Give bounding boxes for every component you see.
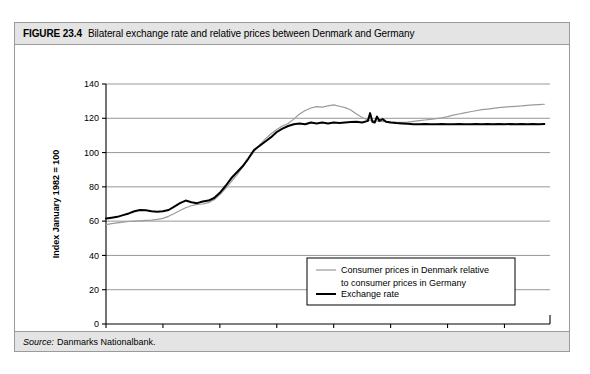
figure-number-label: FIGURE 23.4 bbox=[23, 28, 82, 39]
legend-label-exchange-rate: Exchange rate bbox=[341, 289, 399, 299]
source-text: Danmarks Nationalbank. bbox=[57, 337, 156, 347]
source-prefix-label: Source: bbox=[23, 337, 54, 347]
figure-source-bar: Source: Danmarks Nationalbank. bbox=[15, 331, 569, 351]
figure-frame: FIGURE 23.4 Bilateral exchange rate and … bbox=[14, 22, 570, 352]
y-axis-tick-label: 20 bbox=[89, 285, 99, 295]
y-axis-title: Index January 1982 = 100 bbox=[51, 150, 61, 258]
y-axis-tick-label: 0 bbox=[94, 319, 99, 329]
y-axis-tick-label: 60 bbox=[89, 216, 99, 226]
legend-label-relative-prices-line1: Consumer prices in Denmark relative bbox=[341, 265, 489, 275]
y-axis-tick-label: 80 bbox=[89, 182, 99, 192]
legend-label-relative-prices-line2: to consumer prices in Germany bbox=[341, 278, 467, 288]
y-axis-tick-label: 40 bbox=[89, 251, 99, 261]
figure-caption: Bilateral exchange rate and relative pri… bbox=[88, 28, 414, 39]
series-line-exchange-rate bbox=[106, 113, 544, 218]
y-axis-tick-label: 120 bbox=[84, 113, 99, 123]
line-chart: 0204060801001201401970197519801985199019… bbox=[15, 45, 571, 333]
chart-plot-area: 0204060801001201401970197519801985199019… bbox=[15, 45, 569, 331]
figure-title-bar: FIGURE 23.4 Bilateral exchange rate and … bbox=[15, 23, 569, 45]
y-axis-tick-label: 140 bbox=[84, 79, 99, 89]
y-axis-tick-label: 100 bbox=[84, 148, 99, 158]
